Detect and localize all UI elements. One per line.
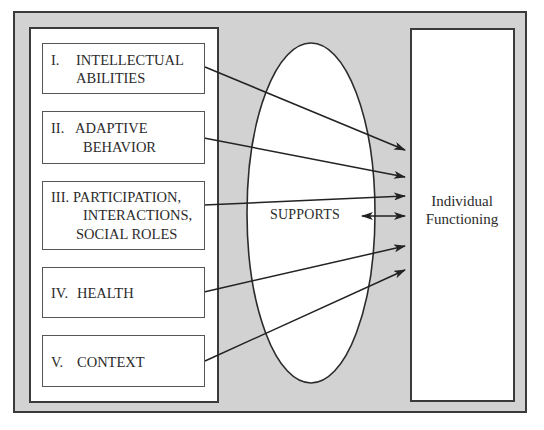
- dimension-label-line: INTERACTIONS,: [83, 206, 192, 224]
- dimension-box-intellectual-abilities: I. INTELLECTUAL ABILITIES: [42, 43, 205, 94]
- dimension-box-health: IV. HEALTH: [42, 267, 205, 318]
- dimension-label-line: BEHAVIOR: [83, 138, 156, 156]
- dimension-numeral: II.: [51, 119, 64, 137]
- supports-label: SUPPORTS: [270, 207, 340, 223]
- dimension-box-adaptive-behavior: II. ADAPTIVE BEHAVIOR: [42, 111, 205, 164]
- dimension-label-line: SOCIAL ROLES: [76, 225, 177, 243]
- dimension-label-line: CONTEXT: [77, 353, 145, 371]
- dimension-numeral: III.: [51, 188, 69, 206]
- dimension-box-participation: III. PARTICIPATION, INTERACTIONS, SOCIAL…: [42, 181, 205, 250]
- dimension-label-line: HEALTH: [77, 284, 134, 302]
- outcome-label-line: Individual: [412, 192, 512, 210]
- dimension-label-line: INTELLECTUAL: [76, 51, 184, 69]
- outcome-label-line: Functioning: [412, 210, 512, 228]
- dimension-box-context: V. CONTEXT: [42, 335, 205, 387]
- dimension-numeral: IV.: [51, 284, 68, 302]
- dimension-label-line: PARTICIPATION,: [73, 188, 181, 206]
- dimension-numeral: V.: [51, 353, 63, 371]
- dimension-numeral: I.: [51, 51, 59, 69]
- dimension-label-line: ADAPTIVE: [75, 119, 148, 137]
- individual-functioning-label: Individual Functioning: [412, 192, 512, 228]
- dimension-label-line: ABILITIES: [76, 69, 145, 87]
